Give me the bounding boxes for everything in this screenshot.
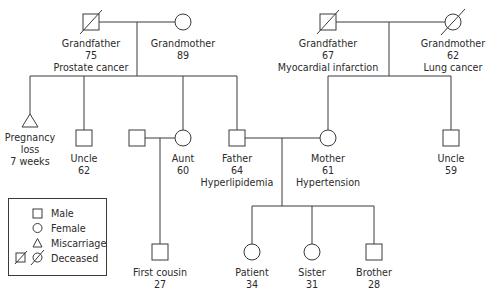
male-icon [129, 130, 145, 146]
male-icon [229, 130, 245, 146]
male-icon [76, 130, 92, 146]
female-icon [320, 130, 336, 146]
legend-label-deceased: Deceased [51, 253, 98, 264]
patient: Patient 34 [235, 244, 269, 290]
age: 75 [85, 50, 97, 61]
age: 27 [154, 279, 166, 290]
label: Grandfather [62, 38, 120, 49]
brother: Brother 28 [356, 244, 392, 290]
age: 61 [322, 165, 334, 176]
female-icon [304, 244, 320, 260]
aunt: Aunt 60 [172, 130, 195, 176]
label: Father [222, 153, 252, 164]
label-line1: Pregnancy [5, 132, 56, 143]
label: Grandmother [421, 38, 485, 49]
legend-label-miscarriage: Miscarriage [51, 238, 106, 249]
pat-uncle: Uncle 62 [71, 130, 98, 176]
label: First cousin [133, 267, 187, 278]
condition: Hyperlipidemia [201, 177, 274, 188]
legend-male-icon [33, 209, 42, 218]
label: Brother [356, 267, 392, 278]
aunt-husband [129, 130, 145, 146]
female-icon [175, 14, 191, 30]
label: Uncle [438, 153, 465, 164]
label: Uncle [71, 153, 98, 164]
sister: Sister 31 [298, 244, 325, 290]
label-line3: 7 weeks [10, 156, 49, 167]
label: Aunt [172, 153, 195, 164]
first-cousin: First cousin 27 [133, 244, 187, 290]
female-icon [175, 130, 191, 146]
label-line2: loss [21, 144, 40, 155]
age: 62 [78, 165, 90, 176]
age: 59 [445, 165, 457, 176]
age: 28 [368, 279, 380, 290]
father: Father 64 Hyperlipidemia [201, 130, 274, 188]
legend-label-female: Female [51, 223, 86, 234]
pat-grandfather: Grandfather 75 Prostate cancer [54, 10, 129, 73]
condition: Myocardial infarction [278, 62, 379, 73]
label: Mother [311, 153, 345, 164]
pregnancy-loss: Pregnancy loss 7 weeks [5, 114, 56, 167]
label: Grandmother [151, 38, 215, 49]
age: 34 [246, 279, 258, 290]
pedigree-diagram: Grandfather 75 Prostate cancer Grandmoth… [0, 0, 487, 291]
mother: Mother 61 Hypertension [296, 130, 360, 188]
condition: Lung cancer [424, 62, 483, 73]
age: 60 [177, 165, 189, 176]
mat-grandmother: Grandmother 62 Lung cancer [421, 9, 485, 73]
pat-grandmother: Grandmother 89 [151, 14, 215, 61]
age: 89 [177, 50, 189, 61]
male-icon [443, 130, 459, 146]
mat-uncle: Uncle 59 [438, 130, 465, 176]
legend-female-icon [33, 224, 42, 233]
age: 31 [306, 279, 318, 290]
condition: Hypertension [296, 177, 360, 188]
condition: Prostate cancer [54, 62, 129, 73]
male-icon [366, 244, 382, 260]
miscarriage-triangle-icon [22, 114, 38, 127]
age: 64 [231, 165, 243, 176]
female-icon [244, 244, 260, 260]
label: Sister [298, 267, 325, 278]
age: 67 [322, 50, 334, 61]
male-icon [152, 244, 168, 260]
label: Grandfather [299, 38, 357, 49]
legend: Male Female Miscarriage Deceased [9, 199, 107, 276]
label: Patient [235, 267, 269, 278]
legend-label-male: Male [51, 208, 74, 219]
age: 62 [447, 50, 459, 61]
mat-grandfather: Grandfather 67 Myocardial infarction [278, 10, 379, 73]
